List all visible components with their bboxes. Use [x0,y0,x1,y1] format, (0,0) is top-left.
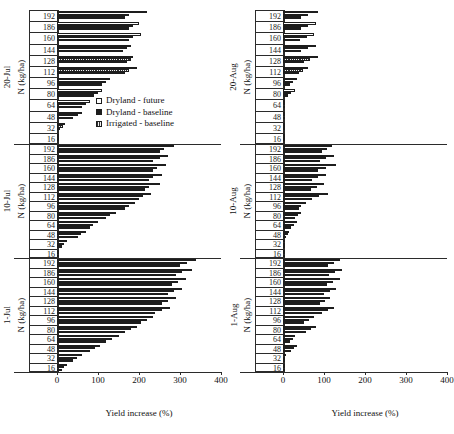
bar-group-48 [283,111,447,122]
y-tick-64: 64 [255,334,283,344]
bar-baseline-112 [57,72,125,74]
y-tick-80: 80 [29,211,57,221]
legend-swatch-future-icon [96,98,102,104]
bar-group-48 [283,230,447,240]
x-axis-area: 0100200300400Yield increase (%) [57,372,221,432]
y-axis-title: N (kg/ha) [14,10,29,144]
panel-10-aug: 10-AugN (kg/ha)1921861601441281129680644… [226,144,451,258]
y-tick-160: 160 [255,32,283,43]
bar-group-160 [283,163,447,173]
bar-group-16 [57,133,221,144]
y-tick-186: 186 [29,154,57,164]
plot-wrapper: 192186160144128112968064483216 [255,144,451,258]
bar-group-96 [283,201,447,211]
bar-group-128 [57,296,221,306]
bar-group-112 [57,306,221,316]
bar-group-64 [57,334,221,344]
bar-baseline-80 [283,331,306,333]
y-tick-144: 144 [29,287,57,297]
panel-date-label: 10-Jul [0,144,14,258]
y-tick-128: 128 [255,55,283,66]
plot-wrapper: 192186160144128112968064483216 [29,258,225,372]
plot-area [57,144,221,258]
bar-baseline-80 [57,94,94,96]
panel-1-jul: 1-JulN (kg/ha)19218616014412811296806448… [0,258,225,372]
y-tick-80: 80 [255,325,283,335]
y-tick-96: 96 [255,77,283,88]
y-tick-80: 80 [255,211,283,221]
bar-group-112 [57,66,221,77]
x-axis-title: Yield increase (%) [283,408,447,418]
figure-column-right: 20-AugN (kg/ha)1921861601441281129680644… [226,0,451,434]
bar-baseline-186 [57,274,176,276]
y-tick-160: 160 [29,32,57,43]
legend: Dryland - futureDryland - baselineIrriga… [96,95,174,130]
bar-baseline-64 [57,226,90,228]
legend-item-baseline: Dryland - baseline [96,107,174,119]
y-tick-48: 48 [255,111,283,122]
bar-baseline-186 [283,274,329,276]
y-tick-48: 48 [29,230,57,240]
bar-baseline-186 [283,160,320,162]
bar-group-112 [283,66,447,77]
bar-group-192 [283,258,447,268]
y-tick-48: 48 [255,230,283,240]
bar-group-186 [57,268,221,278]
bar-baseline-112 [283,312,322,314]
bar-baseline-48 [57,236,78,238]
panel-date-label: 1-Aug [226,258,240,372]
bar-group-48 [283,344,447,354]
y-tick-80: 80 [255,88,283,99]
bar-baseline-144 [283,50,301,52]
bar-baseline-186 [57,160,153,162]
y-tick-48: 48 [29,344,57,354]
legend-label: Irrigated - baseline [106,118,174,130]
x-tick-label-100: 100 [317,375,331,385]
y-tick-64: 64 [29,99,57,110]
plot-wrapper: 192186160144128112968064483216 [255,10,451,144]
y-tick-64: 64 [255,99,283,110]
plot-wrapper: 192186160144128112968064483216 [255,258,451,372]
bar-group-192 [283,144,447,154]
y-tick-192: 192 [255,10,283,21]
bar-group-112 [283,192,447,202]
bar-baseline-64 [57,106,82,108]
y-tick-144: 144 [29,173,57,183]
bar-baseline-160 [57,39,129,41]
bar-group-16 [283,249,447,259]
legend-label: Dryland - future [106,95,164,107]
y-tick-32: 32 [29,353,57,363]
bar-baseline-80 [283,217,295,219]
legend-item-future: Dryland - future [96,95,174,107]
bar-baseline-32 [57,245,62,247]
bar-group-144 [283,173,447,183]
bar-baseline-96 [283,83,290,85]
x-axis-ticks: 0100200300400 [57,372,221,394]
y-tick-128: 128 [29,296,57,306]
panel-1-aug: 1-AugN (kg/ha)19218616014412811296806448… [226,258,451,372]
y-tick-192: 192 [255,144,283,154]
y-tick-144: 144 [255,173,283,183]
bar-baseline-128 [283,61,304,63]
bar-baseline-160 [283,169,318,171]
plot-wrapper: 192186160144128112968064483216 [29,144,225,258]
bar-group-128 [283,182,447,192]
y-tick-80: 80 [29,88,57,99]
bar-baseline-48 [283,350,291,352]
bar-baseline-48 [57,350,90,352]
x-axis-wrapper: 0100200300400Yield increase (%) [255,372,451,432]
y-tick-16: 16 [255,133,283,144]
bar-group-48 [57,230,221,240]
bar-baseline-160 [283,283,327,285]
bar-group-186 [57,21,221,32]
bar-group-186 [283,21,447,32]
y-tick-64: 64 [255,220,283,230]
bar-baseline-128 [57,61,127,63]
bar-baseline-16 [57,139,59,141]
y-axis-title: N (kg/ha) [240,144,255,258]
y-tick-16: 16 [29,363,57,373]
y-tick-112: 112 [255,306,283,316]
bar-baseline-186 [57,27,129,29]
bar-baseline-112 [283,198,312,200]
bar-group-16 [57,363,221,373]
